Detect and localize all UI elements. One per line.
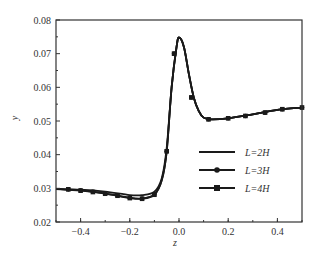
square-marker-icon — [66, 187, 71, 192]
y-tick-label: 0.03 — [34, 183, 52, 194]
line-chart: −0.4−0.20.00.20.4 0.020.030.040.050.060.… — [0, 0, 317, 262]
legend-label: L=2H — [244, 147, 270, 158]
square-marker-icon — [140, 196, 145, 201]
x-tick-label: −0.2 — [121, 226, 139, 237]
x-tick-label: −0.4 — [72, 226, 90, 237]
square-marker-icon — [214, 185, 220, 191]
y-tick-label: 0.06 — [34, 82, 52, 93]
y-tick-label: 0.07 — [34, 48, 52, 59]
y-axis-title: y — [9, 115, 20, 121]
x-tick-label: 0.4 — [271, 226, 284, 237]
square-marker-icon — [243, 114, 248, 119]
circle-marker-icon — [214, 167, 220, 173]
square-marker-icon — [152, 192, 157, 197]
square-marker-icon — [189, 95, 194, 100]
square-marker-icon — [103, 191, 108, 196]
x-axis-title: z — [172, 237, 177, 248]
legend-label: L=4H — [244, 183, 270, 194]
square-marker-icon — [172, 51, 177, 56]
x-tick-label: 0.0 — [173, 226, 186, 237]
square-marker-icon — [263, 110, 268, 115]
square-marker-icon — [206, 117, 211, 122]
y-tick-label: 0.02 — [34, 217, 52, 228]
square-marker-icon — [78, 188, 83, 193]
square-marker-icon — [226, 116, 231, 121]
square-marker-icon — [91, 190, 96, 195]
legend-label: L=3H — [244, 165, 270, 176]
square-marker-icon — [280, 107, 285, 112]
y-tick-label: 0.04 — [34, 149, 52, 160]
x-tick-label: 0.2 — [222, 226, 235, 237]
square-marker-icon — [164, 149, 169, 154]
y-tick-label: 0.05 — [34, 116, 52, 127]
square-marker-icon — [128, 196, 133, 201]
square-marker-icon — [115, 193, 120, 198]
y-tick-label: 0.08 — [34, 15, 52, 26]
